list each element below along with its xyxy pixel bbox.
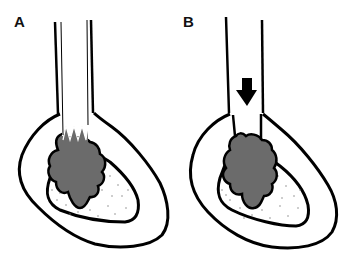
tube-outer-left-a: [55, 22, 58, 114]
tube-interior-a: [62, 18, 89, 136]
tube-right-b: [262, 20, 263, 113]
diagram-canvas: [0, 0, 354, 263]
panel-b: [191, 17, 337, 248]
tube-outer-right-a: [91, 20, 93, 113]
panel-a: [19, 18, 168, 247]
